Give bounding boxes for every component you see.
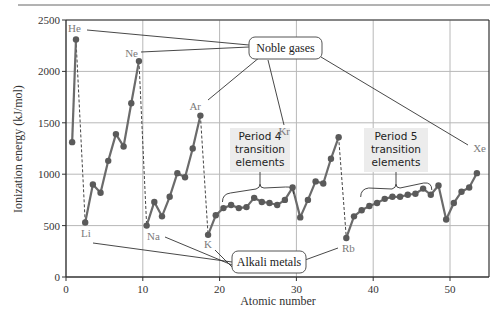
data-point	[166, 194, 172, 200]
data-point	[174, 170, 180, 176]
data-point	[228, 202, 234, 208]
y-tick-label: 500	[44, 220, 61, 232]
element-label-kr: Kr	[278, 125, 290, 137]
transition-label-line: elements	[236, 156, 285, 168]
data-point	[305, 197, 311, 203]
element-label-k: K	[204, 238, 212, 250]
series-line	[147, 116, 201, 226]
noble-gases-leader	[208, 57, 260, 100]
data-point	[105, 158, 111, 164]
data-point	[213, 212, 219, 218]
data-point	[474, 170, 480, 176]
data-point	[412, 191, 418, 197]
noble-gases-callout-label: Noble gases	[256, 41, 315, 55]
y-tick-label: 0	[55, 271, 61, 283]
ionization-energy-chart: 0500100015002000250001020304050 Period 4…	[0, 0, 500, 325]
data-point	[458, 188, 464, 194]
data-point	[343, 235, 349, 241]
transition-label-line: Period 5	[375, 130, 418, 142]
data-point	[251, 195, 257, 201]
element-label-rb: Rb	[342, 242, 355, 254]
data-point	[197, 112, 203, 118]
transition-label-line: transition	[235, 143, 285, 155]
data-point	[312, 178, 318, 184]
x-tick-label: 40	[368, 283, 380, 295]
data-point	[266, 200, 272, 206]
noble-gases-leader	[87, 30, 249, 45]
transition-groups: Period 4transitionelementsPeriod 5transi…	[222, 128, 431, 202]
data-point	[97, 190, 103, 196]
drop-line	[76, 40, 85, 223]
data-point	[120, 143, 126, 149]
drop-lines	[76, 40, 346, 238]
data-point	[382, 196, 388, 202]
transition-label-line: transition	[371, 143, 421, 155]
element-label-li: Li	[81, 227, 91, 239]
y-tick-label: 2500	[38, 14, 61, 26]
data-point	[190, 145, 196, 151]
x-axis-title: Atomic number	[240, 294, 316, 308]
data-point	[397, 194, 403, 200]
data-point	[151, 199, 157, 205]
alkali-metals-callout-label: Alkali metals	[237, 255, 302, 269]
y-axis-title: Ionization energy (kJ/mol)	[11, 85, 25, 213]
transition-label-line: elements	[372, 156, 421, 168]
data-point	[435, 182, 441, 188]
data-point	[374, 200, 380, 206]
series-line	[85, 61, 139, 222]
data-point	[236, 205, 242, 211]
data-point	[451, 200, 457, 206]
data-point	[358, 207, 364, 213]
transition-label-line: Period 4	[239, 130, 282, 142]
data-point	[82, 219, 88, 225]
y-tick-label: 1500	[38, 117, 61, 129]
series-line	[346, 173, 477, 238]
drop-line	[339, 137, 347, 238]
data-point	[289, 184, 295, 190]
data-point	[159, 213, 165, 219]
data-point	[274, 202, 280, 208]
x-tick-label: 50	[445, 283, 457, 295]
x-tick-label: 10	[137, 283, 149, 295]
y-tick-label: 1000	[38, 168, 61, 180]
data-point	[69, 139, 75, 145]
data-point	[405, 192, 411, 198]
x-tick-label: 20	[214, 283, 226, 295]
data-point	[90, 181, 96, 187]
element-label-ne: Ne	[125, 47, 138, 59]
alkali-metals-leader	[165, 237, 232, 265]
data-point	[389, 194, 395, 200]
data-point	[351, 213, 357, 219]
data-point	[328, 156, 334, 162]
data-point	[366, 203, 372, 209]
data-point	[182, 174, 188, 180]
data-point	[73, 36, 79, 42]
data-point	[243, 204, 249, 210]
noble-gases-leader	[141, 47, 249, 52]
y-tick-label: 2000	[38, 65, 61, 77]
data-point	[113, 131, 119, 137]
data-point	[335, 134, 341, 140]
element-label-na: Na	[147, 230, 160, 242]
data-point	[297, 214, 303, 220]
data-point	[220, 205, 226, 211]
noble-gases-leader	[268, 60, 284, 125]
data-point	[320, 180, 326, 186]
data-point	[282, 197, 288, 203]
series-line	[72, 40, 76, 143]
data-point	[420, 185, 426, 191]
data-point	[443, 216, 449, 222]
data-point	[428, 192, 434, 198]
element-label-xe: Xe	[473, 142, 486, 154]
element-label-he: He	[68, 22, 81, 34]
drop-line	[200, 116, 208, 235]
x-tick-label: 0	[63, 283, 69, 295]
data-point	[143, 222, 149, 228]
data-point	[128, 100, 134, 106]
data-point	[466, 184, 472, 190]
data-point	[259, 199, 265, 205]
alkali-metals-leader	[305, 248, 338, 260]
element-label-ar: Ar	[189, 100, 201, 112]
